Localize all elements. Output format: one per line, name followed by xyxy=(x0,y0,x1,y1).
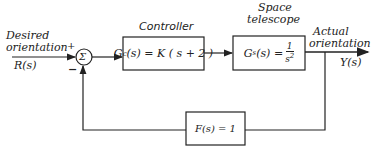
plus-sign: + xyxy=(67,40,75,52)
controller-g: G xyxy=(114,47,123,60)
feedback-transfer-function: F(s) = 1 xyxy=(186,112,245,145)
output-label-line2: orientation xyxy=(309,38,371,50)
plant-denominator-wrap: s2 xyxy=(285,52,294,64)
controller-transfer-function: Gc(s) = K ( s + 2 ) xyxy=(123,37,204,70)
feedback-path-left xyxy=(83,66,186,130)
input-signal-label: R(s) xyxy=(14,60,37,72)
plant-title-line2: telescope xyxy=(247,14,300,26)
sigma-symbol: Σ xyxy=(79,51,86,63)
plant-expr: (s) = xyxy=(256,47,283,60)
plant-transfer-function: Gs(s) = 1 s2 xyxy=(233,36,305,70)
plant-numerator: 1 xyxy=(286,42,294,52)
plant-g: G xyxy=(244,47,253,60)
output-signal-label: Y(s) xyxy=(340,57,362,69)
controller-expr: (s) = K ( s + 2 ) xyxy=(127,47,214,60)
minus-sign: − xyxy=(68,64,77,76)
controller-title: Controller xyxy=(139,21,193,33)
plant-denominator-power: 2 xyxy=(290,52,294,60)
plant-fraction: 1 s2 xyxy=(285,42,294,64)
input-label-line2: orientation xyxy=(6,42,68,54)
